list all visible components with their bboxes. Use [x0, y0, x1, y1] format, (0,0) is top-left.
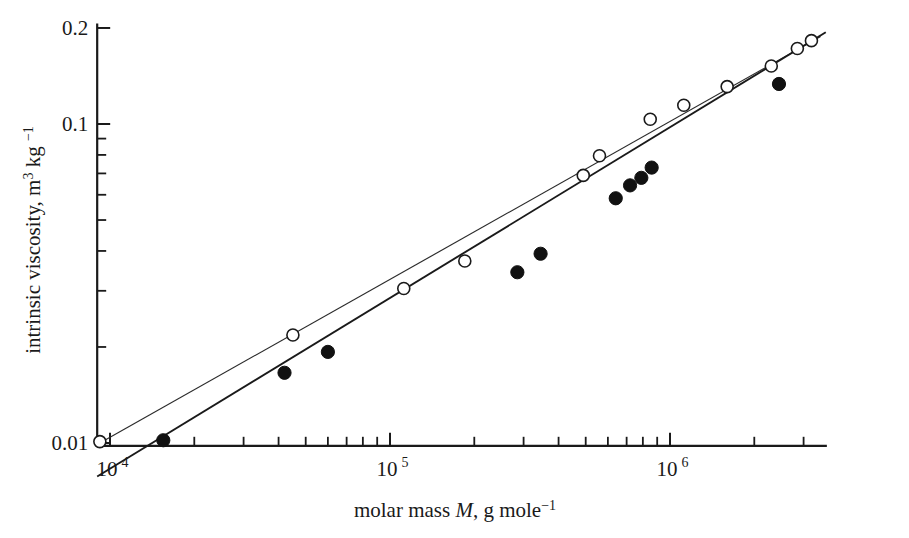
- data-point: [157, 434, 170, 447]
- regression-lines: [97, 32, 826, 476]
- data-point: [678, 99, 690, 111]
- y-tick-label: 0.01: [51, 431, 88, 455]
- chart-figure: 0.010.10.2 104105106 molar mass M, g mol…: [0, 0, 909, 538]
- data-point: [94, 436, 106, 448]
- data-point: [635, 171, 648, 184]
- fit-line-filled-circles: [97, 32, 826, 476]
- x-axis-title: molar mass M, g mole−1: [354, 498, 556, 523]
- x-axis-tick-labels: 104105106: [97, 455, 689, 481]
- y-tick-label: 0.2: [62, 16, 88, 40]
- svg-text:10: 10: [377, 457, 398, 481]
- data-point: [772, 77, 785, 90]
- data-point: [623, 179, 636, 192]
- data-point: [534, 247, 547, 260]
- y-axis-ticks: [97, 28, 110, 443]
- data-point: [321, 345, 334, 358]
- data-point: [511, 266, 524, 279]
- data-point: [721, 81, 733, 93]
- data-point: [593, 150, 605, 162]
- data-point: [644, 113, 656, 125]
- svg-text:10: 10: [97, 457, 118, 481]
- data-point: [609, 192, 622, 205]
- data-point: [577, 169, 589, 181]
- data-point: [645, 161, 658, 174]
- svg-text:5: 5: [402, 455, 409, 470]
- x-tick-label: 105: [377, 455, 409, 481]
- y-axis-title: intrinsic viscosity, m3 kg −1: [21, 126, 46, 354]
- log-log-scatter-plot: 0.010.10.2 104105106 molar mass M, g mol…: [0, 0, 909, 538]
- y-tick-label: 0.1: [62, 112, 88, 136]
- x-tick-label: 106: [657, 455, 689, 481]
- data-point: [278, 366, 291, 379]
- fit-line-open-circles: [100, 37, 821, 443]
- data-point: [398, 283, 410, 295]
- data-point: [791, 42, 803, 54]
- data-point: [459, 255, 471, 267]
- svg-text:10: 10: [657, 457, 678, 481]
- svg-text:6: 6: [682, 455, 689, 470]
- data-point: [765, 60, 777, 72]
- x-axis-ticks: [110, 433, 804, 446]
- data-point: [287, 329, 299, 341]
- y-axis-tick-labels: 0.010.10.2: [51, 16, 88, 455]
- data-point: [805, 35, 817, 47]
